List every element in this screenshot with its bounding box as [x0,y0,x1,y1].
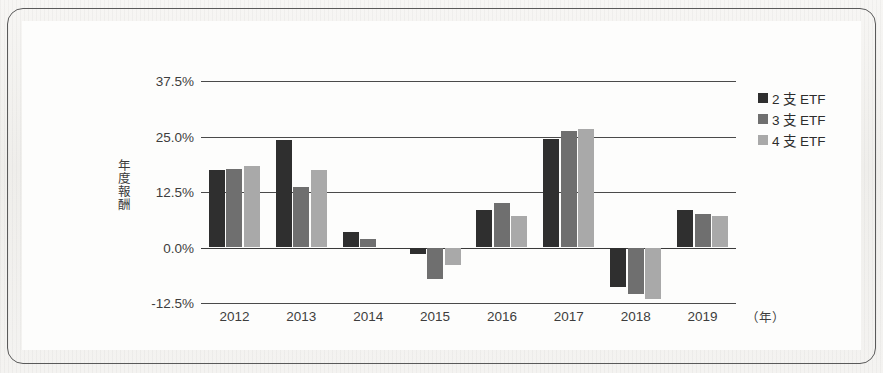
bar-group [410,81,461,303]
bar [561,131,577,247]
bar [244,166,260,247]
bar [511,216,527,247]
bar [543,139,559,248]
legend-swatch-icon [758,93,768,103]
bar [578,129,594,247]
legend-item: 4 支 ETF [758,129,826,150]
bar-group [276,81,327,303]
bar [427,248,443,279]
bar [494,203,510,247]
bar [445,248,461,266]
legend: 2 支 ETF3 支 ETF4 支 ETF [758,87,826,150]
bar-group [677,81,728,303]
bar [209,170,225,248]
plot-area [201,81,736,303]
bar [276,140,292,247]
bar [226,169,242,247]
legend-swatch-icon [758,114,768,124]
bar [677,210,693,248]
x-tick-label: 2015 [420,309,450,324]
bar-group [610,81,661,303]
chart-canvas: 年度報酬 37.5%25.0%12.5%0.0%-12.5% （年） 2 支 E… [22,21,861,350]
legend-item: 3 支 ETF [758,108,826,129]
bar [610,248,626,288]
plot-area-wrapper: 年度報酬 37.5%25.0%12.5%0.0%-12.5% （年） 2 支 E… [22,21,861,350]
x-tick-label: 2019 [688,309,718,324]
chart-screenshot: 年度報酬 37.5%25.0%12.5%0.0%-12.5% （年） 2 支 E… [0,0,883,373]
bar [311,170,327,248]
bar [293,187,309,247]
x-tick-label: 2012 [219,309,249,324]
x-tick-label: 2016 [487,309,517,324]
legend-item: 2 支 ETF [758,87,826,108]
legend-label: 3 支 ETF [772,109,826,129]
legend-label: 2 支 ETF [772,88,826,108]
bar [645,248,661,300]
x-axis-unit-label: （年） [746,307,785,326]
bar [695,214,711,247]
bar [476,210,492,248]
bar-group [343,81,394,303]
grid-line [201,303,736,304]
y-tick-label-column: 37.5%25.0%12.5%0.0%-12.5% [132,21,194,350]
y-tick-label: 25.0% [132,129,194,144]
legend-label: 4 支 ETF [772,130,826,150]
x-tick-label: 2017 [554,309,584,324]
bar [343,232,359,248]
x-tick-label: 2013 [286,309,316,324]
y-tick-label: 0.0% [132,240,194,255]
y-tick-label: 37.5% [132,74,194,89]
y-axis-title: 年度報酬 [108,159,128,211]
bar-group [476,81,527,303]
x-tick-label: 2018 [621,309,651,324]
bar-group [543,81,594,303]
bar-group [209,81,260,303]
legend-swatch-icon [758,135,768,145]
bar [628,248,644,295]
bar [360,239,376,248]
bar [410,248,426,255]
bar [712,216,728,247]
y-tick-label: -12.5% [132,296,194,311]
y-tick-label: 12.5% [132,185,194,200]
x-tick-label: 2014 [353,309,383,324]
bars-layer [201,81,736,303]
